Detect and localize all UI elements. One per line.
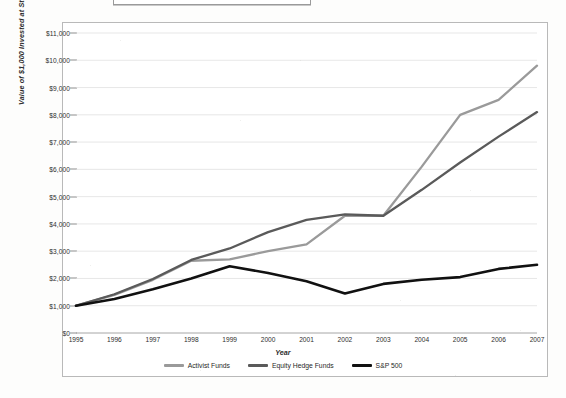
scan-artifact [300, 60, 301, 61]
series-lines [76, 33, 537, 333]
x-axis-tick-label: 2005 [453, 336, 468, 343]
x-axis-tick-label: 2003 [376, 336, 391, 343]
legend-color-swatch [352, 364, 372, 367]
legend-color-swatch [164, 364, 184, 366]
series-line [76, 265, 537, 306]
plot-area [76, 33, 537, 333]
x-axis-title: Year [0, 348, 566, 357]
y-axis-tick-label: $2,000 [49, 275, 70, 282]
x-axis-tick-label: 2004 [414, 336, 429, 343]
y-axis-tick-label: $1,000 [49, 302, 70, 309]
legend-item: Activist Funds [164, 362, 230, 369]
x-axis-tick-label: 2006 [491, 336, 506, 343]
legend-label: Activist Funds [188, 362, 230, 369]
x-axis-tick-label: 1997 [145, 336, 160, 343]
x-axis-tick-label: 1998 [184, 336, 199, 343]
legend-item: S&P 500 [352, 362, 403, 369]
x-axis-tick-label: 1996 [107, 336, 122, 343]
series-line [76, 66, 537, 306]
legend-item: Equity Hedge Funds [248, 362, 334, 369]
y-axis-tick-label: $4,000 [49, 220, 70, 227]
chart-legend: Activist FundsEquity Hedge FundsS&P 500 [0, 362, 566, 369]
legend-label: Equity Hedge Funds [272, 362, 334, 369]
y-axis-tick-label: $7,000 [49, 139, 70, 146]
y-axis-tick-label: $11,000 [46, 30, 70, 37]
scan-artifact [90, 265, 91, 266]
legend-color-swatch [248, 364, 268, 367]
x-axis-tick-label: 2002 [338, 336, 353, 343]
y-axis-tick-label: $5,000 [49, 193, 70, 200]
legend-label: S&P 500 [376, 362, 403, 369]
x-axis-tick-label: 1999 [222, 336, 237, 343]
clipped-header-box [113, 0, 311, 5]
y-axis-title: Value of $1,000 Invested at Start of 199… [17, 0, 26, 105]
y-axis-tick-label: $3,000 [49, 248, 70, 255]
y-axis-tick-label: $10,000 [45, 57, 70, 64]
y-axis-tick-label: $8,000 [49, 111, 70, 118]
y-axis-tick-label: $9,000 [49, 84, 70, 91]
x-axis-tick-label: 2007 [530, 336, 545, 343]
x-axis-tick-label: 2001 [299, 336, 314, 343]
x-axis-tick-label: 1995 [69, 336, 84, 343]
x-axis-tick-label: 2000 [261, 336, 276, 343]
y-axis-tick-label: $6,000 [49, 166, 70, 173]
scanned-page: $0$1,000$2,000$3,000$4,000$5,000$6,000$7… [0, 0, 566, 398]
